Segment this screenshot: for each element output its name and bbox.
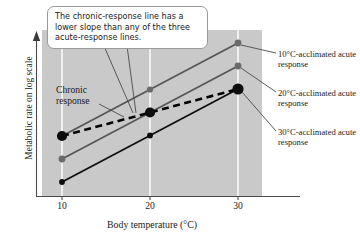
legend-label-30c-acclimated: 30°C-acclimated acute response: [278, 127, 360, 147]
y-axis-label: Metabolic rate on log scale: [24, 23, 34, 193]
x-axis-label: Body temperature (°C): [42, 219, 262, 230]
legend-label-10c-acclimated: 10°C-acclimated acute response: [278, 49, 360, 69]
legend-label-20c-acclimated: 20°C-acclimated acute response: [278, 88, 360, 108]
figure: The chronic-response line has a lower sl…: [0, 0, 360, 238]
x-tick-label-10: 10: [47, 200, 77, 211]
datapoint-20c-x30: [235, 63, 242, 70]
datapoint-10c-x10: [57, 131, 67, 141]
datapoint-20c-x10: [59, 156, 66, 163]
callout-text: The chronic-response line has a lower sl…: [55, 11, 190, 42]
x-tick-label-30: 30: [223, 200, 253, 211]
datapoint-20c-x20: [145, 107, 155, 117]
chronic-response-label: Chronic response: [56, 84, 116, 107]
datapoint-30c-x20: [147, 133, 153, 139]
datapoint-10c-x30: [235, 40, 242, 47]
datapoint-30c-x30: [232, 83, 243, 94]
datapoint-10c-x20: [147, 86, 153, 92]
datapoint-30c-x10: [59, 179, 65, 185]
callout-box: The chronic-response line has a lower sl…: [47, 6, 208, 49]
x-tick-label-20: 20: [135, 200, 165, 211]
